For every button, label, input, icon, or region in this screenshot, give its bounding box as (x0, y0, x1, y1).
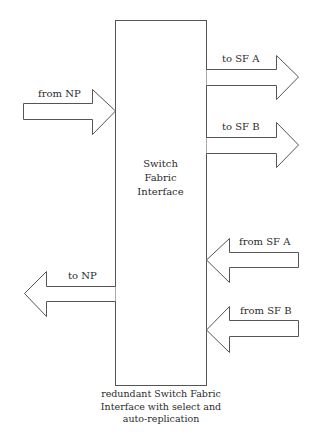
diagram-caption: redundant Switch Fabric Interface with s… (85, 388, 237, 426)
caption-line: auto-replication (85, 413, 237, 426)
from-sf-b-label: from SF B (240, 305, 291, 317)
box-label-line: Fabric (115, 171, 206, 185)
caption-line: redundant Switch Fabric (85, 388, 237, 401)
from-np-label: from NP (38, 88, 81, 100)
caption-line: Interface with select and (85, 401, 237, 414)
switch-fabric-interface-box (116, 21, 207, 386)
diagram-canvas (0, 0, 319, 441)
to-np-label: to NP (68, 270, 97, 282)
switch-fabric-diagram: from NP to SF A to SF B to NP from SF A … (0, 0, 319, 441)
box-label-line: Switch (115, 157, 206, 171)
switch-fabric-interface-label: Switch Fabric Interface (115, 157, 206, 199)
to-sf-a-label: to SF A (222, 53, 259, 65)
to-sf-b-label: to SF B (222, 121, 260, 133)
box-label-line: Interface (115, 185, 206, 199)
from-sf-a-label: from SF A (239, 236, 290, 248)
